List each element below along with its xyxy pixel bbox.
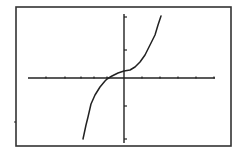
- graph-plot: [0, 0, 238, 157]
